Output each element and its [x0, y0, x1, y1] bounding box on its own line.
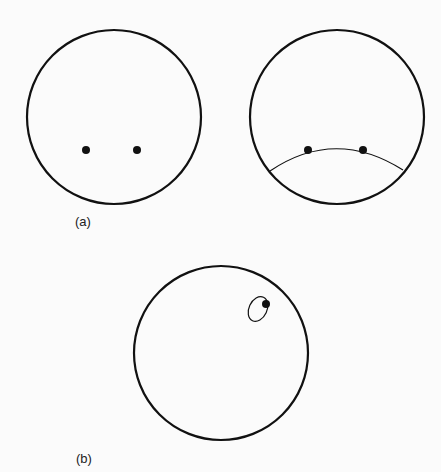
- panel-a-label: (a): [75, 214, 91, 229]
- panel-b-label: (b): [76, 451, 92, 466]
- geodesic-arc: [270, 149, 403, 171]
- sphere-circle: [27, 30, 201, 204]
- point-dot: [133, 146, 141, 154]
- point-dot: [304, 146, 312, 154]
- sphere-circle: [134, 266, 308, 440]
- panel-b: [134, 266, 308, 440]
- panel-a-right: [250, 30, 424, 204]
- sphere-circle: [250, 30, 424, 204]
- diagram-canvas: [0, 0, 441, 472]
- neighborhood-ellipse: [244, 293, 271, 324]
- point-dot: [262, 300, 270, 308]
- point-dot: [82, 146, 90, 154]
- panel-a-left: [27, 30, 201, 204]
- point-dot: [359, 146, 367, 154]
